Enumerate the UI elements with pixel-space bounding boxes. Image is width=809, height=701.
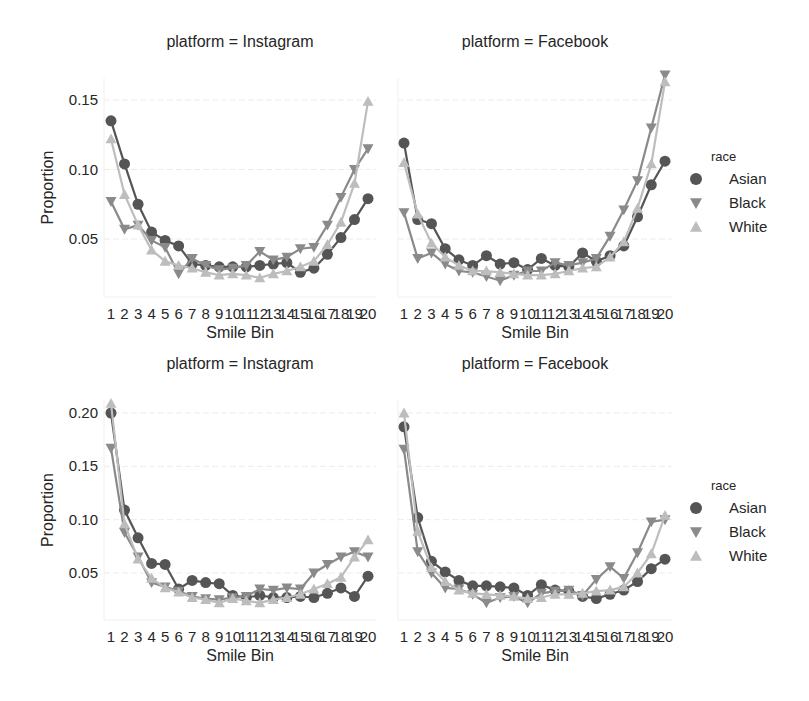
y-tick-label: 0.15 [69,457,98,474]
data-point [106,197,117,207]
data-point [363,571,374,582]
triangle-up-icon [690,550,702,561]
data-point [646,179,657,190]
data-point [363,553,374,563]
legend-item-white: White [690,218,767,235]
faceted-line-chart: 0.050.100.151234567891011121314151617181… [0,0,809,701]
data-point [160,243,171,253]
data-point [481,250,492,261]
data-point [322,588,333,599]
legend-2: raceAsianBlackWhite [690,478,767,564]
x-tick-label: 2 [120,628,128,645]
x-tick-label: 9 [510,305,518,322]
x-tick-label: 2 [414,628,422,645]
y-tick-label: 0.20 [69,404,98,421]
x-tick-label: 20 [360,305,377,322]
y-tick-label: 0.05 [69,564,98,581]
legend-label: Black [729,194,766,211]
series-line [111,413,368,598]
series-white [399,76,671,279]
legend-1: raceAsianBlackWhite [690,149,767,235]
legend-label: White [729,218,767,235]
data-point [106,398,117,408]
data-point [646,563,657,574]
y-axis-label: Proportion [39,473,56,547]
series-black [399,71,671,287]
data-point [133,532,144,543]
data-point [133,199,144,210]
panel-2: 1234567891011121314151617181920platform … [398,33,673,341]
data-point [646,517,657,527]
series-black [399,445,671,608]
data-point [322,578,333,588]
data-point [646,158,657,168]
x-tick-label: 8 [496,305,504,322]
data-point [214,578,225,589]
x-tick-label: 6 [469,628,477,645]
data-point [660,554,671,565]
data-point [349,591,360,602]
x-tick-label: 7 [188,305,196,322]
legend-item-asian: Asian [690,499,767,516]
x-tick-label: 8 [496,628,504,645]
data-point [254,260,265,271]
data-point [363,534,374,544]
y-tick-label: 0.05 [69,230,98,247]
series-asian [399,138,671,275]
data-point [660,510,671,520]
panel-title: platform = Facebook [462,33,609,50]
data-point [646,548,657,558]
data-point [146,245,157,255]
x-tick-label: 5 [455,305,463,322]
data-point [660,76,671,86]
x-tick-label: 20 [657,628,674,645]
data-point [322,239,333,249]
panel-4: 1234567891011121314151617181920platform … [398,355,673,664]
triangle-up-icon [690,221,702,232]
x-tick-label: 3 [427,628,435,645]
y-tick-label: 0.15 [69,91,98,108]
data-point [412,254,423,264]
data-point [173,240,184,251]
triangle-down-icon [690,198,702,209]
legend-title: race [711,149,736,164]
x-tick-label: 1 [400,305,408,322]
x-tick-label: 7 [482,628,490,645]
legend-item-asian: Asian [690,170,767,187]
x-tick-label: 9 [215,628,223,645]
x-tick-label: 8 [202,305,210,322]
legend-label: White [729,547,767,564]
x-tick-label: 3 [427,305,435,322]
data-point [536,253,547,264]
x-tick-label: 4 [147,628,155,645]
legend-label: Asian [729,170,767,187]
x-axis-label: Smile Bin [206,647,274,664]
data-point [536,579,547,590]
data-point [119,225,130,235]
x-tick-label: 5 [161,628,169,645]
x-tick-label: 5 [455,628,463,645]
x-tick-label: 4 [147,305,155,322]
data-point [632,548,643,558]
data-point [322,560,333,570]
series-white [106,398,374,607]
data-point [335,232,346,243]
x-tick-label: 9 [215,305,223,322]
data-point [481,598,492,608]
data-point [106,115,117,126]
data-point [200,577,211,588]
data-point [173,269,184,279]
data-point [187,575,198,586]
data-point [335,193,346,203]
triangle-down-icon [690,527,702,538]
series-black [106,144,374,279]
legend-label: Black [729,523,766,540]
x-tick-label: 1 [107,628,115,645]
legend-label: Asian [729,499,767,516]
x-tick-label: 4 [441,305,449,322]
data-point [605,232,616,242]
y-tick-label: 0.10 [69,511,98,528]
data-point [335,582,346,593]
x-tick-label: 3 [134,628,142,645]
series-white [106,96,374,282]
